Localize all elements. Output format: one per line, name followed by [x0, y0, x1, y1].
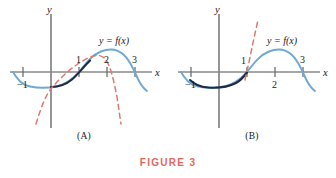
- x-tick-label-3-b: 3: [300, 54, 305, 65]
- x-tick-label-3-a: 3: [132, 54, 137, 65]
- panel-container: y x −1 1 2 3 y = f(x) (A): [0, 0, 336, 150]
- curve-label-a: y = f(x): [98, 35, 130, 47]
- curve-label-b: y = f(x): [266, 35, 298, 47]
- x-tick-label-minus1-a: −1: [17, 79, 28, 90]
- y-axis-label-a: y: [46, 4, 52, 15]
- curve-fx-b: [181, 50, 315, 91]
- x-tick-label-2-b: 2: [272, 79, 277, 90]
- x-axis-label-a: x: [154, 67, 160, 78]
- panel-a: y x −1 1 2 3 y = f(x) (A): [0, 0, 168, 150]
- x-tick-label-1-b: 1: [241, 55, 246, 66]
- x-tick-label-minus1-b: −1: [185, 79, 196, 90]
- tangent-dashed-a: [36, 55, 121, 124]
- panel-b: y x −1 1 2 3 y = f(x) (B): [168, 0, 336, 150]
- panel-a-plot: y x −1 1 2 3 y = f(x): [0, 0, 168, 150]
- panel-label-a: (A): [0, 131, 168, 141]
- x-tick-label-1-a: 1: [76, 54, 81, 65]
- x-tick-label-2-a: 2: [104, 54, 109, 65]
- figure-caption: FIGURE 3: [0, 157, 336, 168]
- y-axis-label-b: y: [214, 4, 220, 15]
- x-axis-label-b: x: [322, 67, 328, 78]
- panel-b-plot: y x −1 1 2 3 y = f(x): [168, 0, 336, 150]
- tangent-dashed-b: [245, 20, 258, 80]
- panel-label-b: (B): [168, 131, 336, 141]
- figure-3: y x −1 1 2 3 y = f(x) (A): [0, 0, 336, 178]
